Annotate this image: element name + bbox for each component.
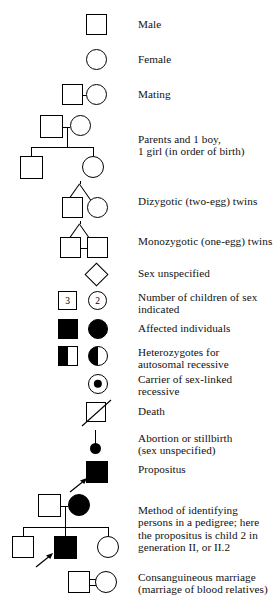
legend-label-female: Female <box>138 53 171 65</box>
symbol-carrier-dot-circle <box>0 372 138 398</box>
square-count-value: 3 <box>58 297 77 307</box>
symbol-diamond-open <box>0 261 138 291</box>
symbol-number-of-children: 3 2 <box>0 289 138 314</box>
legend-label-number-of-children: Number of children of sex indicated <box>138 291 257 316</box>
legend-label-identifying-persons: Method of identifying persons in a pedig… <box>138 504 259 554</box>
symbol-consanguineous-marriage <box>0 565 138 601</box>
circle-count-value: 2 <box>88 297 107 307</box>
symbol-abortion-stillbirth <box>0 428 138 458</box>
legend-label-male: Male <box>138 18 161 30</box>
legend-label-parents-children: Parents and 1 boy, 1 girl (in order of b… <box>138 133 245 158</box>
death-slash-line <box>80 399 114 429</box>
symbol-square-open <box>0 0 138 42</box>
legend-label-abortion-stillbirth: Abortion or stillbirth (sex unspecified) <box>138 432 232 457</box>
legend-label-consanguineous-marriage: Consanguineous marriage (marriage of blo… <box>138 571 268 596</box>
legend-label-propositus: Propositus <box>138 463 186 475</box>
legend-label-monozygotic-twins: Monozygotic (one-egg) twins <box>138 235 272 247</box>
legend-label-carrier-sex-linked: Carrier of sex-linked recessive <box>138 373 232 398</box>
symbol-mating <box>0 77 138 112</box>
legend-label-affected-individuals: Affected individuals <box>138 322 230 334</box>
symbol-circle-open <box>0 42 138 77</box>
symbol-heterozygotes <box>0 344 138 371</box>
legend-label-dizygotic-twins: Dizygotic (two-egg) twins <box>138 195 257 207</box>
legend-label-sex-unspecified: Sex unspecified <box>138 267 210 279</box>
symbol-pedigree-two-children <box>0 112 138 179</box>
legend-label-mating: Mating <box>138 88 171 100</box>
legend-label-death: Death <box>138 405 165 417</box>
pedigree-legend: Male Female Mating <box>0 0 277 601</box>
symbol-affected-individuals <box>0 317 138 343</box>
legend-label-heterozygotes: Heterozygotes for autosomal recessive <box>138 346 229 371</box>
symbol-death-slashed-square <box>0 399 138 427</box>
symbol-propositus <box>0 459 138 491</box>
symbol-monozygotic-twins <box>0 221 138 261</box>
symbol-dizygotic-twins <box>0 181 138 221</box>
symbol-pedigree-propositus <box>0 491 138 563</box>
